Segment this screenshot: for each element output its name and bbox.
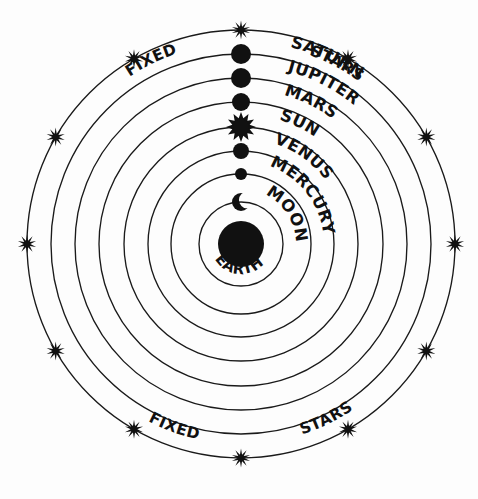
fixed-star-icon <box>47 128 65 147</box>
fixed-star-icon <box>417 342 435 361</box>
label-fixed-top-left: FIXED <box>122 40 179 80</box>
moon-icon <box>232 193 250 211</box>
mars-disk <box>232 93 250 111</box>
geocentric-diagram: SATURNJUPITERMARSSUNVENUSMERCURYMOONEART… <box>0 0 478 499</box>
celestial-bodies-group <box>226 44 256 211</box>
venus-disk <box>233 143 249 159</box>
saturn-disk <box>231 44 251 64</box>
label-fixed-bottom-left: FIXED <box>146 409 202 444</box>
fixed-star-icon <box>18 235 36 254</box>
cosmos-svg: SATURNJUPITERMARSSUNVENUSMERCURYMOONEART… <box>0 0 478 499</box>
fixed-star-icon <box>339 420 357 439</box>
fixed-star-icon <box>417 128 435 147</box>
sun-core <box>233 119 249 135</box>
fixed-star-icon <box>125 420 143 439</box>
mercury-disk <box>235 168 247 180</box>
jupiter-disk <box>231 68 251 88</box>
fixed-star-icon <box>47 342 65 361</box>
fixed-star-icon <box>446 235 464 254</box>
